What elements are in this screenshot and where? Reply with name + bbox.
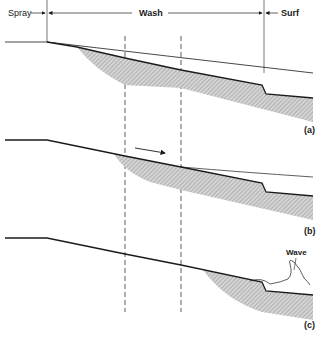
beach-profile-line — [5, 238, 313, 295]
swash-direction-arrow — [135, 148, 165, 153]
panel-b — [5, 140, 313, 220]
panel-label-c: (c) — [304, 320, 315, 330]
sediment-shading — [114, 154, 313, 220]
sediment-shading — [77, 47, 313, 122]
panel-c — [5, 238, 313, 320]
zone-label-wash: Wash — [139, 8, 163, 18]
panel-label-b: (b) — [304, 226, 316, 236]
beach-profile-diagram — [0, 0, 321, 341]
zone-label-surf: Surf — [281, 8, 299, 18]
panel-a — [5, 42, 313, 122]
panel-label-a: (a) — [304, 125, 315, 135]
sediment-shading — [203, 270, 313, 320]
wave-label: Wave — [286, 248, 307, 257]
zone-label-spray: Spray — [8, 8, 32, 18]
